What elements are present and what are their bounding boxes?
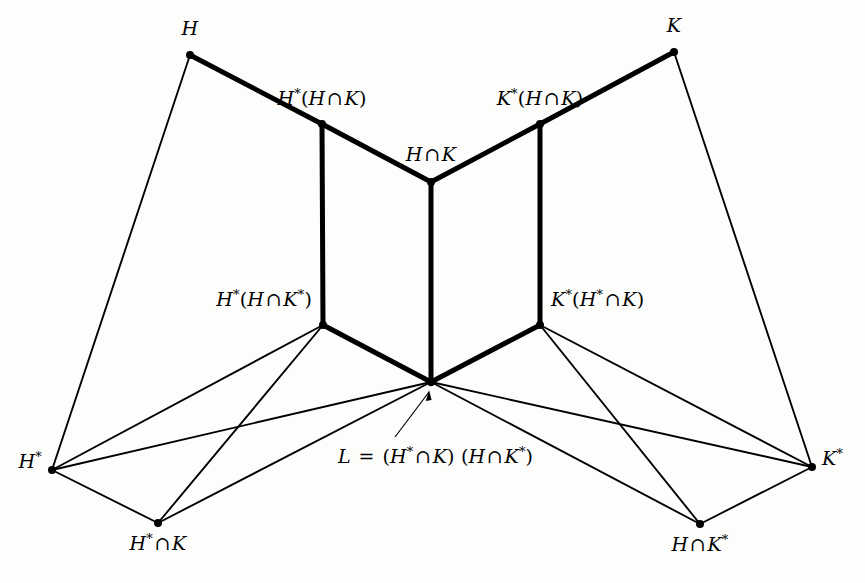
node-label-K: K xyxy=(667,16,681,35)
lattice-edge-thin xyxy=(158,325,323,523)
lattice-edge-thick xyxy=(323,325,431,382)
lattice-node-HiK xyxy=(427,178,435,186)
lattice-node-HiKs xyxy=(696,520,704,528)
lattice-node-Ks_HsiK xyxy=(536,321,544,329)
lattice-edge-thick xyxy=(322,124,323,325)
lattice-node-Ks_HiK xyxy=(536,120,544,128)
lattice-node-H xyxy=(186,51,194,59)
lattice-diagram: HKH*(H∩K)K*(H∩K)H∩KH*(H∩K*)K*(H*∩K)H*K*H… xyxy=(0,0,865,583)
lattice-node-Hs_HiKs xyxy=(319,321,327,329)
lattice-node-HsiK xyxy=(154,519,162,527)
node-label-Ks: K* xyxy=(822,449,843,468)
thick-edge-group xyxy=(190,52,674,382)
lattice-graphics xyxy=(0,0,865,583)
lattice-node-K xyxy=(670,48,678,56)
annotation-label-L-definition: L = (H*∩K) (H∩K*) xyxy=(338,447,533,466)
lattice-node-L xyxy=(427,378,435,386)
lattice-edge-thin xyxy=(700,467,812,524)
lattice-node-Ks xyxy=(808,463,816,471)
lattice-node-Hs_HiK xyxy=(318,120,326,128)
lattice-node-Hs xyxy=(48,466,56,474)
node-label-HsiK: H*∩K xyxy=(129,534,186,553)
node-label-H: H xyxy=(182,19,199,38)
lattice-edge-thin xyxy=(52,470,158,523)
node-label-Ks_HiK: K*(H∩K) xyxy=(497,89,584,108)
lattice-edge-thick xyxy=(431,325,540,382)
node-label-Hs_HiK: H*(H∩K) xyxy=(277,89,366,108)
node-label-Hs: H* xyxy=(19,452,42,471)
node-label-Ks_HsiK: K*(H*∩K) xyxy=(551,290,644,309)
node-label-HiK: H∩K xyxy=(406,145,456,164)
node-label-HiKs: H∩K* xyxy=(671,535,728,554)
node-label-Hs_HiKs: H*(H∩K*) xyxy=(216,290,312,309)
